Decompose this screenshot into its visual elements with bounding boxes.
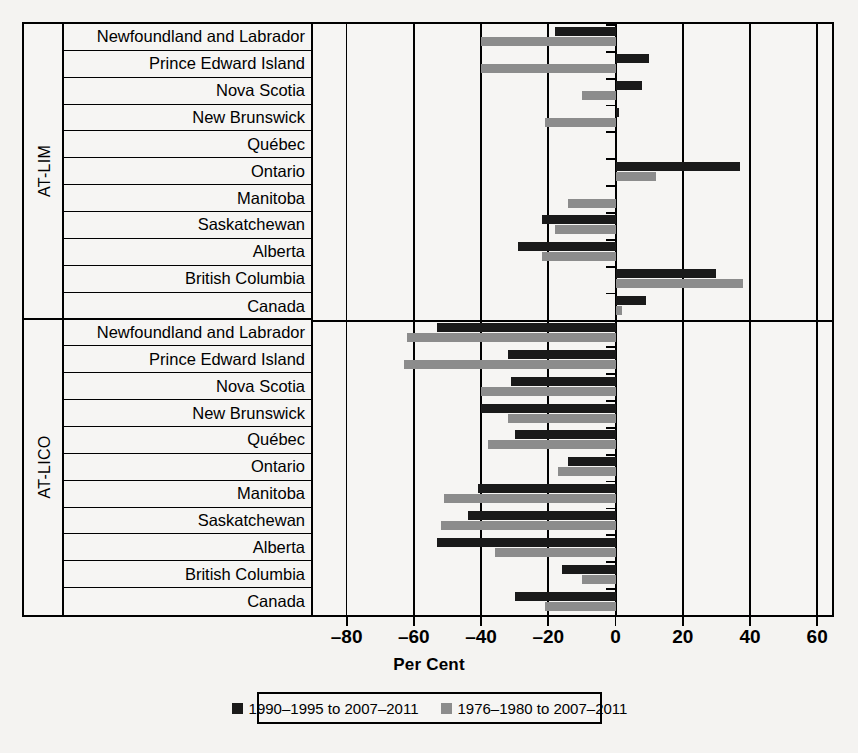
category-label: Alberta xyxy=(64,239,313,266)
category-label: Saskatchewan xyxy=(64,508,313,535)
row-tick xyxy=(606,454,616,456)
bar-series1 xyxy=(616,81,643,90)
row-tick xyxy=(606,212,616,214)
x-tick xyxy=(480,617,482,626)
legend-swatch-icon xyxy=(441,703,452,714)
bar-series1 xyxy=(616,269,717,278)
x-tick-label: 40 xyxy=(739,626,760,648)
bar-series2 xyxy=(488,440,616,449)
bar-series2 xyxy=(545,602,616,611)
row-tick xyxy=(606,534,616,536)
category-label: Manitoba xyxy=(64,481,313,508)
bar-series2 xyxy=(481,387,615,396)
legend-swatch-icon xyxy=(232,703,243,714)
row-tick xyxy=(606,400,616,402)
category-rows: Newfoundland and LabradorPrince Edward I… xyxy=(62,24,313,318)
bar-series1 xyxy=(437,538,615,547)
category-label: Nova Scotia xyxy=(64,78,313,105)
bar-series1 xyxy=(616,162,740,171)
bar-series2 xyxy=(616,279,744,288)
bar-series1 xyxy=(478,484,616,493)
bar-series1 xyxy=(616,108,619,117)
bar-series1 xyxy=(568,457,615,466)
category-label: Saskatchewan xyxy=(64,212,313,239)
plot-box: AT-LIMNewfoundland and LabradorPrince Ed… xyxy=(22,22,834,617)
row-tick xyxy=(606,320,616,322)
x-axis-tick-labels: –80–60–40–200204060 xyxy=(22,626,834,650)
bar-series2 xyxy=(568,199,615,208)
bar-series2 xyxy=(582,575,616,584)
legend-label: 1990–1995 to 2007–2011 xyxy=(249,700,419,717)
bar-series2 xyxy=(495,548,616,557)
row-tick xyxy=(606,131,616,133)
bar-series2 xyxy=(558,467,615,476)
bar-series1 xyxy=(515,592,616,601)
row-tick xyxy=(606,346,616,348)
category-label-column: AT-LIMNewfoundland and LabradorPrince Ed… xyxy=(24,24,313,615)
category-label: Canada xyxy=(64,588,313,615)
bar-series1 xyxy=(508,350,616,359)
bar-series1 xyxy=(511,377,615,386)
category-label: British Columbia xyxy=(64,561,313,588)
chart-legend: 1990–1995 to 2007–20111976–1980 to 2007–… xyxy=(257,692,602,724)
x-tick-label: –40 xyxy=(465,626,497,648)
x-tick-label: 0 xyxy=(610,626,621,648)
x-tick xyxy=(547,617,549,626)
plot-area xyxy=(313,24,832,615)
group-label: AT-LIM xyxy=(28,24,62,318)
x-tick xyxy=(749,617,751,626)
bar-series2 xyxy=(616,172,656,181)
x-tick-label: –20 xyxy=(532,626,564,648)
bar-series1 xyxy=(562,565,616,574)
bar-series2 xyxy=(404,360,616,369)
legend-label: 1976–1980 to 2007–2011 xyxy=(458,700,628,717)
x-axis-ticks xyxy=(22,617,834,626)
bar-series1 xyxy=(616,54,650,63)
bar-series2 xyxy=(407,333,615,342)
group-at-lim: AT-LIMNewfoundland and LabradorPrince Ed… xyxy=(24,24,313,320)
x-tick xyxy=(615,617,617,626)
x-tick-label: 60 xyxy=(807,626,828,648)
x-tick-label: 20 xyxy=(672,626,693,648)
x-tick-label: –80 xyxy=(331,626,363,648)
row-tick xyxy=(606,105,616,107)
row-tick xyxy=(606,373,616,375)
bar-series1 xyxy=(542,215,616,224)
group-label-text: AT-LIM xyxy=(36,145,54,197)
bar-series1 xyxy=(481,404,615,413)
category-label: British Columbia xyxy=(64,266,313,293)
category-label: Prince Edward Island xyxy=(64,346,313,373)
group-label-text: AT-LICO xyxy=(36,436,54,499)
bar-series2 xyxy=(441,521,616,530)
x-tick xyxy=(816,617,818,626)
bar-series1 xyxy=(555,27,616,36)
group-separator xyxy=(313,320,832,322)
bar-series2 xyxy=(481,37,615,46)
row-tick xyxy=(606,481,616,483)
bar-series1 xyxy=(518,242,615,251)
bar-series1 xyxy=(468,511,616,520)
row-tick xyxy=(606,24,616,26)
bar-series1 xyxy=(437,323,615,332)
category-label: Ontario xyxy=(64,158,313,185)
category-label: New Brunswick xyxy=(64,400,313,427)
row-tick xyxy=(606,239,616,241)
category-label: Canada xyxy=(64,293,313,320)
category-label: Newfoundland and Labrador xyxy=(64,24,313,51)
bar-series1 xyxy=(515,430,616,439)
bar-series2 xyxy=(555,225,616,234)
bar-series2 xyxy=(481,64,615,73)
row-tick xyxy=(606,185,616,187)
row-tick xyxy=(606,508,616,510)
legend-item: 1990–1995 to 2007–2011 xyxy=(232,700,419,717)
bar-series2 xyxy=(542,252,616,261)
group-at-lico: AT-LICONewfoundland and LabradorPrince E… xyxy=(24,320,313,616)
category-label: Newfoundland and Labrador xyxy=(64,320,313,347)
row-tick xyxy=(606,561,616,563)
row-tick xyxy=(606,158,616,160)
category-rows: Newfoundland and LabradorPrince Edward I… xyxy=(62,320,313,616)
bar-series2 xyxy=(508,414,616,423)
row-tick xyxy=(606,427,616,429)
row-tick xyxy=(606,51,616,53)
x-tick xyxy=(346,617,348,626)
